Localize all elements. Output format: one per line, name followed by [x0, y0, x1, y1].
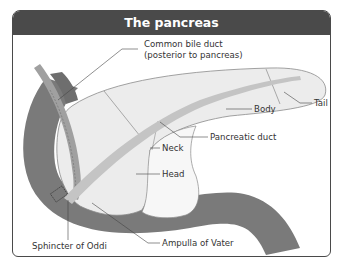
label-tail: Tail: [313, 98, 328, 108]
label-common-bile-duct-note: (posterior to pancreas): [144, 50, 243, 60]
label-neck: Neck: [162, 143, 183, 153]
label-common-bile-duct: Common bile duct: [144, 39, 223, 49]
label-head: Head: [162, 169, 184, 179]
label-ampulla-of-vater: Ampulla of Vater: [162, 238, 234, 248]
label-sphincter-of-oddi: Sphincter of Oddi: [32, 241, 107, 251]
label-pancreatic-duct: Pancreatic duct: [210, 132, 277, 142]
label-body: Body: [254, 104, 276, 114]
pancreas-diagram: Common bile duct (posterior to pancreas)…: [0, 0, 340, 272]
